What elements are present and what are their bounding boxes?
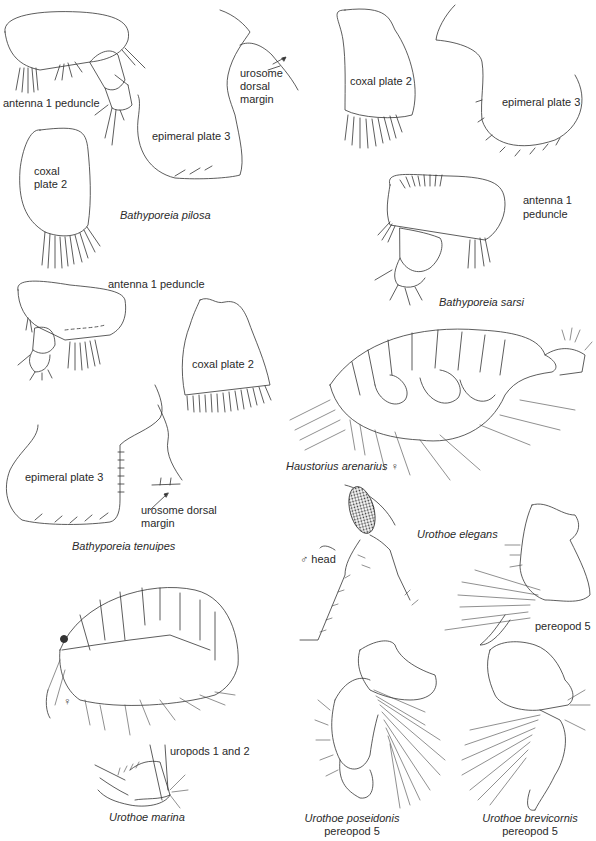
sarsi-antenna-drawing: [375, 174, 505, 305]
pilosa-urosome-label-line2: dorsal: [240, 80, 270, 93]
pilosa-epimeral-label: epimeral plate 3: [152, 130, 230, 143]
tenuipes-coxal-plate-drawing: [182, 299, 271, 412]
pilosa-coxal-label-line2: plate 2: [34, 178, 67, 191]
pilosa-epimeral-plate-drawing: [138, 10, 298, 179]
elegans-male-head-label: ♂ head: [300, 553, 336, 566]
pilosa-urosome-label-line3: margin: [240, 93, 274, 106]
figure-drawings: [0, 0, 596, 841]
sarsi-antenna-label-line1: antenna 1: [523, 194, 572, 207]
tenuipes-epimeral-label: epimeral plate 3: [25, 471, 103, 484]
haustorius-species-text: Haustorius arenarius: [286, 460, 388, 472]
species-name-urothoe-elegans: Urothoe elegans: [417, 528, 498, 541]
species-name-urothoe-marina: Urothoe marina: [109, 811, 185, 824]
tenuipes-urosome-label-line2: margin: [141, 517, 175, 530]
tenuipes-antenna-drawing: [18, 281, 126, 380]
brevicornis-pereopod-label: pereopod 5: [465, 825, 595, 838]
species-name-urothoe-brevicornis: Urothoe brevicornis: [465, 812, 595, 825]
tenuipes-antenna-label: antenna 1 peduncle: [108, 278, 205, 291]
pilosa-urosome-label-line1: urosome: [240, 67, 283, 80]
species-name-bathyporeia-pilosa: Bathyporeia pilosa: [120, 209, 211, 222]
sarsi-epimeral-plate-drawing: [436, 5, 582, 156]
species-name-urothoe-poseidonis: Urothoe poseidonis: [290, 812, 414, 825]
urothoe-brevicornis-drawing: [462, 642, 590, 811]
urothoe-poseidonis-drawing: [315, 641, 445, 808]
sarsi-antenna-label-line2: peduncle: [523, 208, 568, 221]
poseidonis-pereopod-label: pereopod 5: [290, 825, 414, 838]
tenuipes-urosome-label-line1: urosome dorsal: [141, 504, 217, 517]
pilosa-antenna-label: antenna 1 peduncle: [3, 97, 100, 110]
marina-female-symbol: ♀: [63, 695, 71, 708]
marina-uropods-label: uropods 1 and 2: [170, 745, 250, 758]
species-name-haustorius-arenarius: Haustorius arenarius ♀: [286, 460, 399, 473]
pilosa-coxal-label-line1: coxal: [34, 165, 60, 178]
species-name-bathyporeia-sarsi: Bathyporeia sarsi: [439, 296, 524, 309]
pilosa-coxal-plate-drawing: [20, 128, 100, 268]
sarsi-epimeral-label: epimeral plate 3: [502, 96, 580, 109]
urothoe-marina-body-drawing: [46, 588, 238, 736]
haustorius-arenarius-drawing: [290, 328, 592, 480]
female-symbol: ♀: [391, 460, 399, 472]
sarsi-coxal-label: coxal plate 2: [350, 75, 412, 88]
species-name-bathyporeia-tenuipes: Bathyporeia tenuipes: [72, 540, 175, 553]
elegans-pereopod-label: pereopod 5: [535, 620, 591, 633]
pilosa-antenna-drawing: [5, 12, 145, 145]
tenuipes-coxal-label: coxal plate 2: [192, 358, 254, 371]
